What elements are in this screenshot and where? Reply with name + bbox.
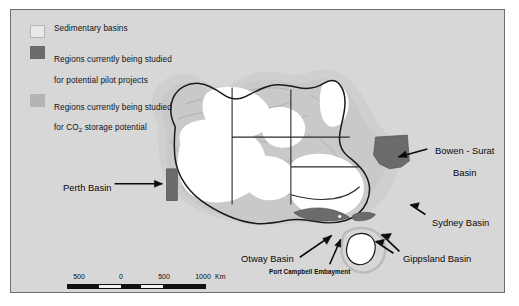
scalebar-segment-3	[121, 284, 141, 289]
legend-item-sedimentary-basins: Sedimentary basins	[30, 24, 220, 38]
bowen-surat-basin-label: Bowen - Surat Basin	[435, 134, 494, 178]
legend-item-co2-storage: Regions currently being studied for CO2 …	[30, 93, 220, 134]
legend-label-sedimentary-basins: Sedimentary basins	[54, 24, 128, 34]
map-legend: Sedimentary basins Regions currently bei…	[30, 24, 220, 141]
co2-storage-swatch	[30, 94, 45, 107]
legend-co2-line2-pre: for CO	[54, 123, 79, 132]
pilot-projects-swatch	[30, 46, 45, 59]
legend-pilot-line2: for potential pilot projects	[54, 76, 148, 85]
scalebar-tick-1: 0	[119, 273, 123, 280]
port-campbell-embayment-label: Port Campbell Embayment	[269, 268, 350, 276]
map-panel: Sedimentary basins Regions currently bei…	[10, 9, 505, 293]
perth-basin-label: Perth Basin	[63, 182, 111, 193]
scalebar-segments	[67, 284, 206, 289]
map-scalebar: 500 0 500 1000 Km	[67, 273, 227, 293]
scalebar-segment-5	[163, 284, 206, 289]
legend-label-pilot-projects: Regions currently being studied for pote…	[54, 45, 172, 86]
sydney-basin-label: Sydney Basin	[432, 217, 489, 228]
scalebar-segment-4	[141, 284, 163, 289]
legend-item-pilot-projects: Regions currently being studied for pote…	[30, 45, 220, 86]
legend-co2-subscript: 2	[79, 126, 83, 133]
scalebar-segment-2	[99, 284, 121, 289]
legend-pilot-line1: Regions currently being studied	[54, 55, 172, 64]
map-figure: Sedimentary basins Regions currently bei…	[0, 0, 519, 306]
scalebar-tick-0: 500	[73, 273, 85, 280]
perth-basin-region	[166, 169, 177, 201]
gippsland-basin-label: Gippsland Basin	[403, 253, 471, 264]
scalebar-unit: Km	[215, 273, 226, 280]
gippsland-basin-region	[352, 212, 375, 220]
legend-co2-line1: Regions currently being studied	[54, 103, 172, 112]
legend-label-co2-storage: Regions currently being studied for CO2 …	[54, 93, 172, 134]
scalebar-tick-3: 1000	[195, 273, 211, 280]
tasmania-land	[346, 233, 375, 264]
port-campbell-embayment-marker	[338, 215, 342, 219]
scalebar-segment-1	[67, 284, 99, 289]
bowen-surat-line2: Basin	[453, 167, 476, 178]
scalebar-tick-2: 500	[158, 273, 170, 280]
scalebar-tick-labels: 500 0 500 1000 Km	[67, 273, 227, 283]
sedimentary-basins-swatch	[30, 25, 45, 38]
legend-co2-line2-post: storage potential	[82, 123, 147, 132]
otway-basin-label: Otway Basin	[241, 253, 294, 264]
bowen-surat-line1: Bowen - Surat	[435, 145, 494, 156]
